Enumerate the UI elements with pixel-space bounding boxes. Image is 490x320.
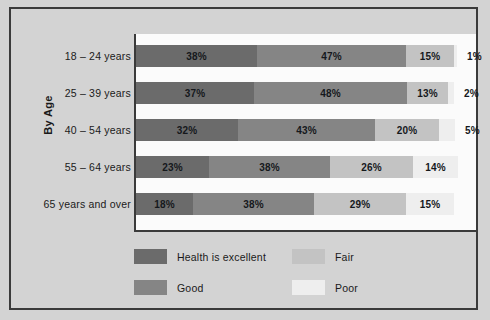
category-label: 65 years and over xyxy=(21,198,131,210)
bar-segment-health-is-excellent: 18% xyxy=(136,193,193,215)
legend-swatch-icon xyxy=(292,280,325,295)
legend-item[interactable]: Poor xyxy=(292,280,358,295)
bar-segment-poor xyxy=(454,45,457,67)
bar-segment-health-is-excellent: 23% xyxy=(136,156,209,178)
legend-item[interactable]: Good xyxy=(134,280,204,295)
bar-row: 32%43%20% xyxy=(136,119,455,141)
legend-item[interactable]: Fair xyxy=(292,249,354,264)
bar-segment-poor xyxy=(448,82,454,104)
legend-swatch-icon xyxy=(134,280,167,295)
bar-segment-health-is-excellent: 32% xyxy=(136,119,238,141)
chart-outer-frame: By Age 18 – 24 years25 – 39 years40 – 54… xyxy=(9,7,478,310)
bar-segment-poor: 15% xyxy=(406,193,454,215)
category-label: 40 – 54 years xyxy=(21,124,131,136)
legend-swatch-icon xyxy=(292,249,325,264)
bar-value-label-outside: 1% xyxy=(467,45,482,67)
bar-value-label-outside: 2% xyxy=(464,82,479,104)
bar-segment-poor xyxy=(439,119,455,141)
category-label-column: 18 – 24 years25 – 39 years40 – 54 years5… xyxy=(19,34,131,232)
bar-row: 23%38%26%14% xyxy=(136,156,458,178)
legend-swatch-icon xyxy=(134,249,167,264)
bar-segment-fair: 13% xyxy=(407,82,448,104)
legend-label: Poor xyxy=(335,282,358,294)
category-label: 18 – 24 years xyxy=(21,50,131,62)
bar-segment-good: 38% xyxy=(209,156,330,178)
bar-row: 37%48%13% xyxy=(136,82,454,104)
legend-label: Fair xyxy=(335,251,354,263)
bar-row: 38%47%15% xyxy=(136,45,457,67)
bar-segment-health-is-excellent: 37% xyxy=(136,82,254,104)
bar-segment-good: 48% xyxy=(254,82,407,104)
bar-segment-fair: 29% xyxy=(314,193,406,215)
bar-segment-good: 47% xyxy=(257,45,406,67)
legend-label: Good xyxy=(177,282,204,294)
bar-segment-health-is-excellent: 38% xyxy=(136,45,257,67)
bar-segment-fair: 20% xyxy=(375,119,439,141)
legend-item[interactable]: Health is excellent xyxy=(134,249,266,264)
bar-segment-fair: 15% xyxy=(406,45,454,67)
bar-segment-fair: 26% xyxy=(330,156,413,178)
category-label: 55 – 64 years xyxy=(21,161,131,173)
chart-legend: Health is excellentFairGoodPoor xyxy=(134,249,434,307)
bar-value-label-outside: 5% xyxy=(465,119,480,141)
bar-segment-poor: 14% xyxy=(413,156,458,178)
category-label: 25 – 39 years xyxy=(21,87,131,99)
chart-screenshot: By Age 18 – 24 years25 – 39 years40 – 54… xyxy=(0,0,490,320)
bar-segment-good: 43% xyxy=(238,119,375,141)
legend-label: Health is excellent xyxy=(177,251,266,263)
bar-segment-good: 38% xyxy=(193,193,314,215)
plot-area: 38%47%15%1%37%48%13%2%32%43%20%5%23%38%2… xyxy=(134,34,476,232)
bar-row: 18%38%29%15% xyxy=(136,193,454,215)
